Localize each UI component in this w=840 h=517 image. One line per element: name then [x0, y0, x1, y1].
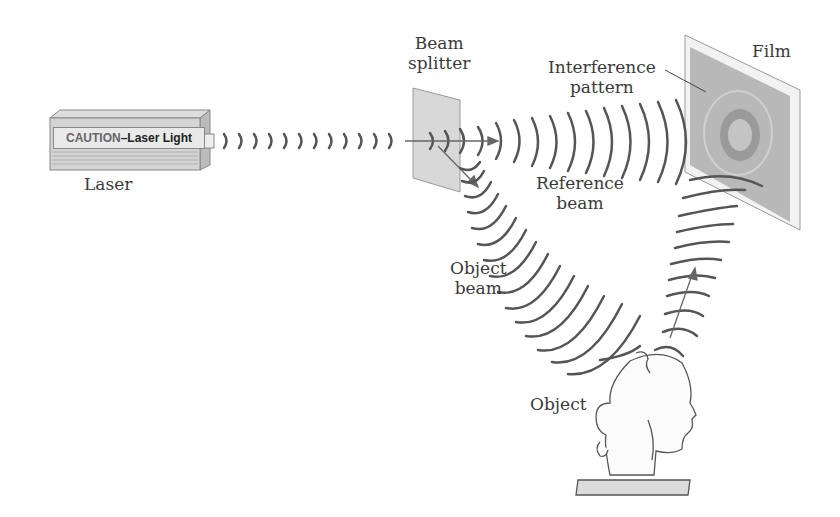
label-laser: Laser — [84, 174, 132, 194]
label-reference-beam: Reference beam — [536, 173, 624, 213]
label-object-beam: Object beam — [450, 258, 507, 298]
film — [685, 35, 800, 230]
label-interference-pattern: Interference pattern — [548, 57, 656, 97]
beam-splitter-line2: splitter — [408, 53, 470, 73]
holography-diagram: CAUTION–Laser Light Laser Beam splitter … — [0, 0, 840, 517]
beam-splitter — [413, 88, 460, 192]
reference-beam-waves — [430, 100, 686, 184]
label-film: Film — [752, 41, 791, 61]
interference-line1: Interference — [548, 57, 656, 77]
laser-caution-label: CAUTION–Laser Light — [53, 127, 205, 149]
label-beam-splitter: Beam splitter — [408, 33, 470, 73]
beam-splitter-line1: Beam — [408, 33, 470, 53]
laser-beam-waves — [224, 134, 392, 148]
reference-line2: beam — [536, 193, 624, 213]
object-beam-line1: Object — [450, 258, 507, 278]
caution-suffix: –Laser Light — [121, 131, 192, 145]
object-bust — [576, 352, 696, 495]
caution-prefix: CAUTION — [66, 131, 121, 145]
diagram-graphics — [0, 0, 840, 517]
label-object: Object — [530, 394, 587, 414]
reference-line1: Reference — [536, 173, 624, 193]
interference-line2: pattern — [548, 77, 656, 97]
object-beam-line2: beam — [450, 278, 507, 298]
